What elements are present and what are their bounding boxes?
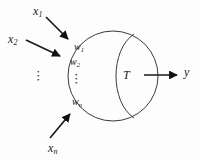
threshold-label: T bbox=[123, 69, 130, 81]
input-label-xn: xn bbox=[48, 142, 57, 156]
weight-ellipsis: ••• bbox=[75, 73, 77, 85]
input-ellipsis: ••• bbox=[37, 70, 39, 82]
weight-label-w1: w1 bbox=[74, 42, 84, 53]
input-arrow-2 bbox=[26, 40, 60, 56]
diagram-canvas bbox=[0, 0, 200, 161]
weight-label-wn: wn bbox=[72, 97, 82, 108]
input-arrow-1 bbox=[46, 17, 68, 39]
weight-label-w2: w2 bbox=[70, 57, 80, 68]
input-arrow-n bbox=[50, 114, 70, 138]
neuron-diagram: x1 x2 xn ••• w1 w2 wn ••• T y bbox=[0, 0, 200, 161]
output-label-y: y bbox=[184, 66, 189, 78]
input-label-x1: x1 bbox=[33, 5, 42, 19]
input-label-x2: x2 bbox=[8, 33, 17, 47]
